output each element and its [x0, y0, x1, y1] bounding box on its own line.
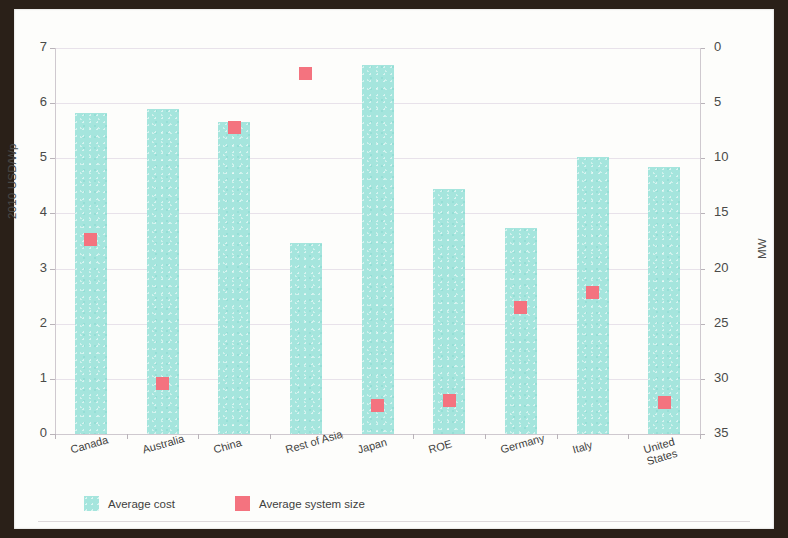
left-axis-tick-label: 2	[29, 315, 47, 330]
page-sheet: 2010 USD/Wp MW 0351302253204155106570Can…	[14, 9, 774, 529]
legend-item-size: Average system size	[235, 496, 365, 511]
right-axis-tick-label: 5	[714, 94, 721, 109]
x-axis-tick	[700, 434, 701, 439]
right-axis-tick-label: 0	[714, 39, 721, 54]
x-axis-label-line: Italy	[571, 438, 594, 455]
left-axis-line	[55, 48, 56, 434]
marker-united-states	[658, 396, 671, 409]
x-axis-label-japan: Japan	[356, 436, 388, 456]
right-axis-tick-label: 30	[714, 370, 728, 385]
right-axis-tick-label: 20	[714, 260, 728, 275]
x-axis-tick	[413, 434, 414, 439]
legend-item-cost: Average cost	[84, 496, 175, 511]
bar-united-states	[648, 167, 680, 434]
plot-area: 0351302253204155106570CanadaAustraliaChi…	[55, 48, 700, 434]
x-axis-label-canada: Canada	[69, 433, 109, 455]
x-axis-label-line: Japan	[356, 436, 388, 456]
marker-rest-of-asia	[299, 67, 312, 80]
bar-japan	[362, 65, 394, 434]
right-axis-tick-label: 10	[714, 149, 728, 164]
x-axis-label-united-states: UnitedStates	[642, 435, 679, 467]
marker-canada	[84, 233, 97, 246]
marker-japan	[371, 399, 384, 412]
x-axis-label-line: Canada	[69, 433, 109, 455]
left-axis-tick-label: 7	[29, 39, 47, 54]
right-axis-tick-label: 25	[714, 315, 728, 330]
bar-germany	[505, 228, 537, 434]
x-axis-tick	[270, 434, 271, 439]
bar-rest-of-asia	[290, 243, 322, 434]
x-axis-tick	[342, 434, 343, 439]
x-axis-label-roe: ROE	[427, 437, 453, 455]
gridline	[55, 48, 700, 49]
left-axis-tick-label: 1	[29, 370, 47, 385]
marker-roe	[443, 394, 456, 407]
x-axis-label-line: ROE	[427, 437, 453, 455]
x-axis-line	[55, 434, 700, 435]
x-axis-label-china: China	[212, 436, 243, 455]
chart-figure: 2010 USD/Wp MW 0351302253204155106570Can…	[14, 9, 774, 529]
x-axis-label-italy: Italy	[571, 438, 594, 455]
x-axis-label-australia: Australia	[141, 432, 185, 455]
right-axis-line	[700, 48, 701, 434]
left-axis-tick-label: 5	[29, 149, 47, 164]
bar-china	[218, 122, 250, 434]
x-axis-label-germany: Germany	[499, 432, 546, 456]
x-axis-tick	[198, 434, 199, 439]
x-axis-tick	[55, 434, 56, 439]
marker-australia	[156, 377, 169, 390]
x-axis-label-line: China	[212, 436, 243, 455]
chart-legend: Average costAverage system size	[84, 496, 365, 511]
x-axis-tick	[485, 434, 486, 439]
x-axis-tick	[557, 434, 558, 439]
bar-canada	[75, 113, 107, 434]
marker-germany	[514, 301, 527, 314]
left-axis-tick-label: 0	[29, 425, 47, 440]
x-axis-tick	[127, 434, 128, 439]
legend-swatch-size-icon	[235, 496, 250, 511]
marker-china	[228, 121, 241, 134]
legend-label: Average system size	[259, 498, 365, 510]
x-axis-label-line: Australia	[141, 432, 185, 455]
left-axis-title: 2010 USD/Wp	[6, 143, 18, 219]
x-axis-label-line: Germany	[499, 432, 546, 456]
x-axis-tick	[628, 434, 629, 439]
right-axis-tick-label: 15	[714, 204, 728, 219]
right-axis-title: MW	[756, 238, 768, 259]
marker-italy	[586, 286, 599, 299]
legend-swatch-cost-icon	[84, 496, 99, 511]
legend-label: Average cost	[108, 498, 175, 510]
left-axis-tick-label: 3	[29, 260, 47, 275]
left-axis-tick-label: 4	[29, 204, 47, 219]
legend-divider	[38, 521, 750, 522]
right-axis-tick-label: 35	[714, 425, 728, 440]
left-axis-tick-label: 6	[29, 94, 47, 109]
